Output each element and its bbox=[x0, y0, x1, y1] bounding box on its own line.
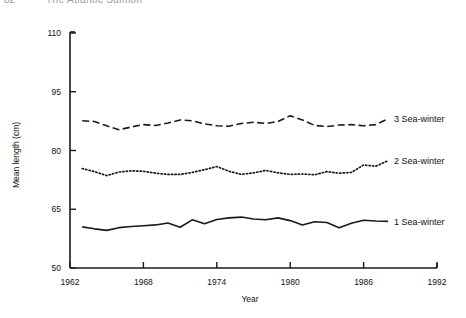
series-line-1 bbox=[82, 116, 388, 130]
y-axis-ticks: 50658095110 bbox=[47, 28, 76, 273]
x-tick-label: 1968 bbox=[134, 277, 153, 287]
figure-page: 82 The Atlantic Salmon 50658095110 19621… bbox=[0, 0, 466, 318]
line-chart: 50658095110 196219681974198019861992 3 S… bbox=[0, 0, 466, 318]
y-tick-label: 80 bbox=[52, 146, 62, 156]
x-tick-label: 1980 bbox=[281, 277, 300, 287]
x-axis-title: Year bbox=[241, 294, 258, 304]
series-line-3 bbox=[82, 217, 388, 230]
y-axis-title: Mean length (cm) bbox=[11, 122, 21, 188]
series-label-3: 1 Sea-winter bbox=[394, 217, 445, 227]
x-tick-label: 1962 bbox=[61, 277, 80, 287]
x-tick-label: 1986 bbox=[354, 277, 373, 287]
series-line-2 bbox=[82, 161, 388, 176]
y-tick-label: 110 bbox=[47, 28, 61, 38]
x-tick-label: 1974 bbox=[207, 277, 226, 287]
series-labels: 3 Sea-winter2 Sea-winter1 Sea-winter bbox=[394, 114, 445, 227]
x-axis-ticks: 196219681974198019861992 bbox=[61, 262, 447, 287]
series-label-2: 2 Sea-winter bbox=[394, 156, 445, 166]
y-tick-label: 50 bbox=[52, 263, 62, 273]
x-tick-label: 1992 bbox=[428, 277, 447, 287]
chart-axes bbox=[70, 32, 437, 268]
series-label-1: 3 Sea-winter bbox=[394, 114, 445, 124]
y-tick-label: 65 bbox=[52, 204, 62, 214]
y-tick-label: 95 bbox=[52, 87, 62, 97]
chart-series bbox=[82, 116, 388, 231]
